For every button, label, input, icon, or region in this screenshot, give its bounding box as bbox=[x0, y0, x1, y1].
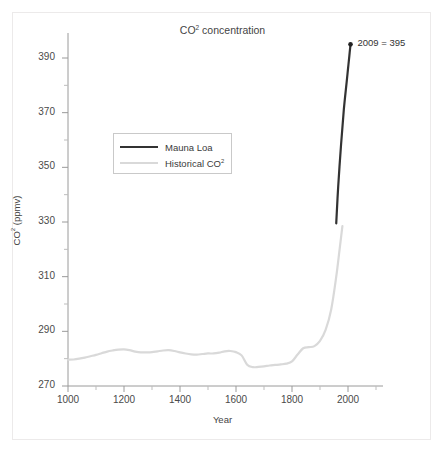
chart-series-layer bbox=[68, 44, 351, 367]
annotation-label: 2009 = 395 bbox=[358, 37, 406, 48]
y-tick-label: 310 bbox=[15, 270, 55, 281]
y-tick-label: 290 bbox=[15, 324, 55, 335]
x-tick-label: 2000 bbox=[325, 394, 371, 405]
y-tick-label: 390 bbox=[15, 51, 55, 62]
x-tick-label: 1800 bbox=[269, 394, 315, 405]
legend-item-mauna-loa[interactable]: Mauna Loa bbox=[120, 139, 213, 155]
y-tick-label: 270 bbox=[15, 379, 55, 390]
legend-swatch-mauna-loa bbox=[120, 146, 158, 148]
y-tick-label: 330 bbox=[15, 215, 55, 226]
x-tick-label: 1200 bbox=[101, 394, 147, 405]
x-axis-ticks bbox=[68, 386, 376, 392]
annotation-marker-dot bbox=[348, 42, 353, 47]
x-tick-label: 1600 bbox=[213, 394, 259, 405]
legend-label-mauna-loa: Mauna Loa bbox=[165, 142, 213, 153]
x-tick-label: 1000 bbox=[45, 394, 91, 405]
chart-plot-area bbox=[0, 0, 445, 453]
legend-label-historical-co2: Historical CO2 bbox=[165, 158, 224, 169]
series-line-mauna-loa bbox=[336, 44, 350, 223]
y-axis-ticks bbox=[62, 58, 68, 386]
chart-axes bbox=[68, 33, 383, 386]
legend-swatch-historical-co2 bbox=[120, 162, 158, 164]
x-tick-label: 1400 bbox=[157, 394, 203, 405]
y-tick-label: 370 bbox=[15, 106, 55, 117]
series-line-historical-co2 bbox=[68, 226, 342, 367]
chart-annotation-layer bbox=[348, 42, 353, 47]
y-tick-label: 350 bbox=[15, 160, 55, 171]
chart-legend[interactable]: Mauna Loa Historical CO2 bbox=[113, 133, 232, 174]
legend-item-historical-co2[interactable]: Historical CO2 bbox=[120, 155, 224, 171]
